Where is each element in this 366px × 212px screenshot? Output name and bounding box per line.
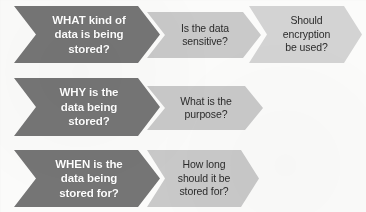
chevron-label: What is the purpose? xyxy=(163,95,249,122)
chevron-how-long-should-it-be-stored-for[interactable]: How long should it be stored for? xyxy=(147,150,259,207)
chevron-when-is-data-being-stored-for[interactable]: WHEN is the data being stored for? xyxy=(14,150,160,207)
chevron-is-data-sensitive[interactable]: Is the data sensitive? xyxy=(147,12,261,58)
chevron-what-kind-of-data[interactable]: WHAT kind of data is being stored? xyxy=(14,6,160,63)
chevron-should-encryption-be-used[interactable]: Should encryption be used? xyxy=(249,6,362,63)
chevron-flow-diagram: WHAT kind of data is being stored? Is th… xyxy=(0,0,366,212)
chevron-label: Should encryption be used? xyxy=(265,14,348,55)
chevron-label: How long should it be stored for? xyxy=(163,158,245,199)
chevron-label: WHY is the data being stored? xyxy=(34,85,144,129)
chevron-what-is-the-purpose[interactable]: What is the purpose? xyxy=(147,86,263,130)
chevron-label: WHEN is the data being stored for? xyxy=(34,157,144,201)
chevron-label: WHAT kind of data is being stored? xyxy=(34,13,144,57)
chevron-why-is-data-being-stored[interactable]: WHY is the data being stored? xyxy=(14,78,160,136)
chevron-label: Is the data sensitive? xyxy=(163,22,247,49)
